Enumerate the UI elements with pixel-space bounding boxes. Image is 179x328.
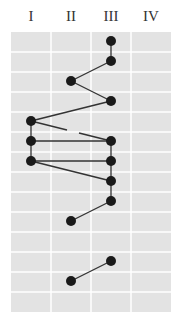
data-point xyxy=(106,136,116,146)
data-point xyxy=(66,276,76,286)
plot-area xyxy=(0,0,179,328)
data-point xyxy=(106,196,116,206)
data-point xyxy=(26,136,36,146)
data-point xyxy=(106,176,116,186)
data-point xyxy=(26,156,36,166)
data-point xyxy=(106,96,116,106)
data-point xyxy=(26,116,36,126)
data-point xyxy=(66,76,76,86)
data-point xyxy=(66,216,76,226)
data-point xyxy=(106,256,116,266)
data-point xyxy=(106,56,116,66)
data-point xyxy=(106,36,116,46)
data-point xyxy=(106,156,116,166)
